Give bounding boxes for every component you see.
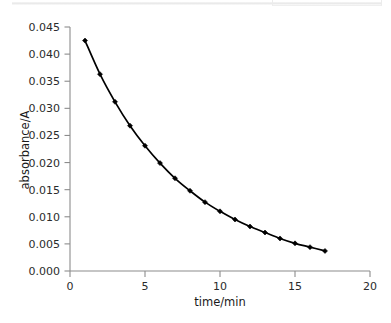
data-point-marker [263, 230, 268, 235]
data-markers-absorbance [83, 38, 328, 253]
y-tick-label: 0.015 [29, 184, 61, 197]
data-point-marker [278, 236, 283, 241]
y-tick-label: 0.005 [29, 238, 61, 251]
y-tick-label: 0.025 [29, 129, 61, 142]
x-tick-label: 15 [288, 280, 302, 293]
plot-canvas: 0.0000.0050.0100.0150.0200.0250.0300.035… [0, 0, 391, 323]
data-point-marker [323, 248, 328, 253]
data-line-absorbance [85, 41, 325, 251]
x-tick-label: 0 [67, 280, 74, 293]
y-tick-label: 0.010 [29, 211, 61, 224]
data-point-marker [293, 241, 298, 246]
x-tick-label: 10 [213, 280, 227, 293]
y-tick-label: 0.000 [29, 265, 61, 278]
x-axis-label: time/min [194, 295, 246, 309]
chart-figure: 0.0000.0050.0100.0150.0200.0250.0300.035… [0, 0, 391, 323]
x-tick-label: 20 [363, 280, 377, 293]
y-tick-label: 0.030 [29, 102, 61, 115]
y-axis-label: absorbance/A [18, 110, 32, 189]
x-axis-ticks: 05101520 [67, 271, 378, 293]
y-tick-label: 0.020 [29, 157, 61, 170]
axis-spines [70, 27, 370, 271]
y-axis-ticks: 0.0000.0050.0100.0150.0200.0250.0300.035… [29, 21, 71, 278]
y-tick-label: 0.040 [29, 48, 61, 61]
data-point-marker [83, 38, 88, 43]
x-tick-label: 5 [142, 280, 149, 293]
data-point-marker [248, 224, 253, 229]
y-tick-label: 0.035 [29, 75, 61, 88]
data-point-marker [308, 245, 313, 250]
y-tick-label: 0.045 [29, 21, 61, 34]
